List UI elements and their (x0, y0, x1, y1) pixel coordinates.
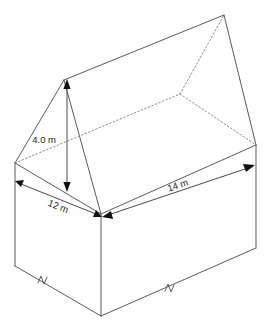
roof-ridge-line (64, 15, 224, 80)
dimension-width: 12 m (15, 180, 102, 217)
dimension-length-line (108, 168, 248, 215)
break-mark-left (38, 276, 47, 284)
dimension-height: 4.0 m (32, 79, 70, 192)
roof-eave-rear-left-hidden (15, 94, 180, 163)
base-edge-front-right (101, 248, 256, 316)
dimension-length-label: 14 m (166, 176, 190, 193)
dimension-length: 14 m (102, 164, 255, 219)
dimension-width-label: 12 m (47, 197, 71, 215)
dimension-length-arrowhead-left (102, 211, 113, 219)
dimension-length-arrowhead-right (243, 164, 255, 172)
diagram-canvas: 4.0 m 12 m 14 m (0, 0, 269, 335)
roof-eave-rear-right-hidden (180, 94, 256, 145)
base-edge-front-left (15, 266, 101, 316)
dimension-height-label: 4.0 m (32, 134, 56, 145)
dimension-height-arrowhead-bottom (63, 182, 70, 192)
roof-edge-front-hip (64, 80, 101, 214)
break-mark-right (165, 284, 174, 292)
roof-edge-left-front-hip (15, 80, 64, 163)
house-prism-figure: 4.0 m 12 m 14 m (0, 0, 269, 335)
roof-hip-rear-hidden (180, 15, 224, 94)
dimension-width-arrowhead-left (15, 180, 24, 187)
roof-edge-right-end (224, 15, 256, 145)
